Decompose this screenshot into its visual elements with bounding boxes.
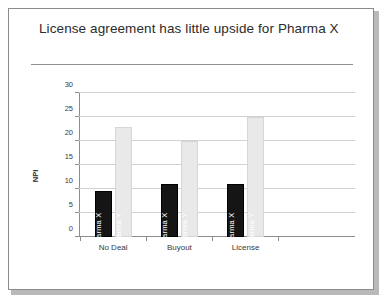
y-tick-label: 10	[65, 176, 73, 185]
bar-pharma-x[interactable]: Pharma X	[227, 184, 244, 237]
y-axis-label: NPI	[31, 170, 40, 183]
y-tick-label: 5	[69, 200, 73, 209]
bar-chart: NPI 051015202530 Pharma XPharma YNo Deal…	[31, 81, 361, 271]
y-tick-mark-30	[75, 92, 79, 93]
y-tick-label: 25	[65, 104, 73, 113]
plot-area: 051015202530 Pharma XPharma YNo DealPhar…	[79, 93, 355, 237]
y-tick-mark-5	[75, 212, 79, 213]
category-tick	[212, 237, 213, 241]
slide-frame: License agreement has little upside for …	[8, 8, 374, 290]
page-title: License agreement has little upside for …	[39, 21, 349, 38]
bar-pharma-y[interactable]: Pharma Y	[247, 117, 264, 237]
y-tick-mark-10	[75, 188, 79, 189]
bar-pharma-x[interactable]: Pharma X	[161, 184, 178, 237]
title-divider	[31, 64, 353, 65]
bar-group: Pharma XPharma YNo Deal	[80, 93, 146, 237]
x-axis-category-label: Buyout	[146, 243, 212, 252]
bar-group: Pharma XPharma YLicense	[212, 93, 278, 237]
bar-group-bars: Pharma XPharma Y	[146, 93, 212, 237]
y-tick-mark-20	[75, 140, 79, 141]
bar-group-bars: Pharma XPharma Y	[80, 93, 146, 237]
y-tick-label: 0	[69, 224, 73, 233]
y-tick-label: 15	[65, 152, 73, 161]
y-tick-mark-25	[75, 116, 79, 117]
bar-pharma-y[interactable]: Pharma Y	[181, 141, 198, 237]
y-tick-label: 30	[65, 80, 73, 89]
x-axis-category-label: No Deal	[80, 243, 146, 252]
bar-group-bars: Pharma XPharma Y	[212, 93, 278, 237]
x-axis-category-label: License	[212, 243, 278, 252]
bar-pharma-x[interactable]: Pharma X	[95, 191, 112, 237]
y-tick-mark-15	[75, 164, 79, 165]
bar-pharma-y[interactable]: Pharma Y	[115, 127, 132, 237]
bar-group: Pharma XPharma YBuyout	[146, 93, 212, 237]
bar-groups: Pharma XPharma YNo DealPharma XPharma YB…	[80, 93, 279, 237]
category-tick	[80, 237, 81, 241]
category-tick	[146, 237, 147, 241]
category-tick-end	[278, 237, 279, 241]
y-tick-label: 20	[65, 128, 73, 137]
y-tick-mark-0	[75, 236, 79, 237]
